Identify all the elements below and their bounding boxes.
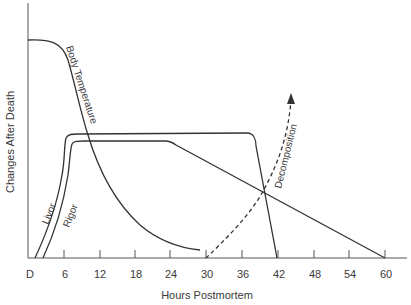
livor-curve: [35, 133, 277, 258]
postmortem-changes-chart: D 6 12 18 24 30 36 42 48 54 60 Hours Pos…: [0, 0, 411, 305]
x-axis-label: Hours Postmortem: [161, 289, 253, 301]
rigor-label: Rigor: [61, 202, 80, 229]
tick-label: 30: [201, 268, 213, 280]
rigor-curve: [43, 141, 385, 258]
livor-label: Livor: [40, 201, 59, 226]
tick-label: 36: [237, 268, 249, 280]
decomposition-label: Decomposition: [272, 123, 299, 190]
tick-label: 48: [309, 268, 321, 280]
body-temperature-curve: [28, 40, 200, 250]
decomposition-arrowhead-icon: [287, 93, 295, 104]
tick-label: D: [26, 268, 34, 280]
tick-label: 18: [130, 268, 142, 280]
tick-label: 54: [344, 268, 356, 280]
tick-label: 24: [165, 268, 177, 280]
axes: [28, 3, 407, 258]
tick-label: 6: [62, 268, 68, 280]
y-axis-label: Changes After Death: [4, 91, 16, 193]
tick-label: 12: [94, 268, 106, 280]
tick-label: 60: [380, 268, 392, 280]
tick-label: 42: [273, 268, 285, 280]
x-tick-labels: D 6 12 18 24 30 36 42 48 54 60: [26, 268, 392, 280]
